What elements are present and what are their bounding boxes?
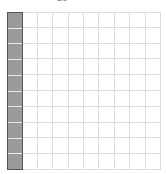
grid-cell (146, 75, 161, 91)
grid-cell (146, 123, 161, 139)
grid-cell (99, 44, 114, 60)
grid-cell (146, 138, 161, 154)
grid-cell (99, 138, 114, 154)
grid-cell (69, 91, 84, 107)
grid-cell (22, 59, 37, 75)
grid-cell (115, 59, 130, 75)
grid-cell (53, 154, 68, 170)
grid-cell (99, 28, 114, 44)
grid-cell (53, 44, 68, 60)
grid-cell (53, 91, 68, 107)
grid-cell (99, 75, 114, 91)
grid-cell (22, 107, 37, 123)
grid-cell (38, 75, 53, 91)
grid-cell (130, 107, 145, 123)
grid-cell (99, 91, 114, 107)
grid-cell (38, 107, 53, 123)
grid-cell (99, 154, 114, 170)
grid-cell (130, 44, 145, 60)
grid-cell (22, 123, 37, 139)
grid-cell (53, 28, 68, 44)
grid-cell (146, 28, 161, 44)
grid-cell (22, 28, 37, 44)
grid-cell (53, 59, 68, 75)
grid-cell (146, 59, 161, 75)
grid-cell (99, 59, 114, 75)
filled-cell (8, 13, 22, 29)
grid-cell (146, 12, 161, 28)
filled-cell (8, 44, 22, 60)
grid-cell (84, 59, 99, 75)
grid-cell (115, 154, 130, 170)
grid-cell (115, 44, 130, 60)
grid-cell (69, 28, 84, 44)
grid-cell (99, 12, 114, 28)
grid-cell (115, 12, 130, 28)
grid-cell (130, 91, 145, 107)
grid-cell (130, 12, 145, 28)
filled-cell (8, 123, 22, 139)
grid-cell (99, 123, 114, 139)
grid-cell (99, 107, 114, 123)
grid-cell (69, 12, 84, 28)
grid-cell (84, 44, 99, 60)
filled-cell (8, 60, 22, 76)
grid-cell (38, 28, 53, 44)
grid-cell (84, 91, 99, 107)
grid-cell (115, 107, 130, 123)
grid-cell (69, 59, 84, 75)
grid-cell (146, 107, 161, 123)
grid-cell (38, 123, 53, 139)
grid-cell (130, 59, 145, 75)
grid-cell (69, 123, 84, 139)
filled-cell (8, 139, 22, 155)
grid-cell (115, 123, 130, 139)
hundred-grid (7, 12, 161, 170)
grid-cell (69, 75, 84, 91)
grid-cell (53, 75, 68, 91)
grid-cell (84, 107, 99, 123)
grid-cell (69, 138, 84, 154)
grid-cell (115, 28, 130, 44)
filled-column (7, 12, 23, 170)
grid-cell (69, 107, 84, 123)
grid-cell (38, 154, 53, 170)
grid-cell (53, 107, 68, 123)
grid-cell (69, 44, 84, 60)
grid-cell (38, 138, 53, 154)
grid-cell (38, 91, 53, 107)
grid-cell (115, 138, 130, 154)
grid-title: 10 (50, 0, 74, 3)
grid-cell (84, 138, 99, 154)
grid-cell (22, 75, 37, 91)
grid-cell (146, 44, 161, 60)
filled-cell (8, 107, 22, 123)
grid-cell (115, 91, 130, 107)
grid-cell (84, 154, 99, 170)
grid-cell (130, 28, 145, 44)
grid-cell (84, 12, 99, 28)
filled-cell (8, 154, 22, 169)
grid-cell (130, 123, 145, 139)
grid-cell (130, 138, 145, 154)
grid-cell (53, 12, 68, 28)
grid-cell (53, 123, 68, 139)
grid-cell (130, 154, 145, 170)
grid-cell (115, 75, 130, 91)
grid-cell (38, 12, 53, 28)
grid-cell (53, 138, 68, 154)
filled-cell (8, 76, 22, 92)
grid-cell (84, 28, 99, 44)
grid-cell (22, 44, 37, 60)
grid-cell (130, 75, 145, 91)
filled-cell (8, 92, 22, 108)
grid-cell (84, 75, 99, 91)
grid-cell (69, 154, 84, 170)
grid-cell (22, 138, 37, 154)
grid-cell (84, 123, 99, 139)
grid-cell (38, 44, 53, 60)
grid-cell (22, 91, 37, 107)
grid-cell (22, 12, 37, 28)
filled-cell (8, 29, 22, 45)
grid-cell (146, 91, 161, 107)
